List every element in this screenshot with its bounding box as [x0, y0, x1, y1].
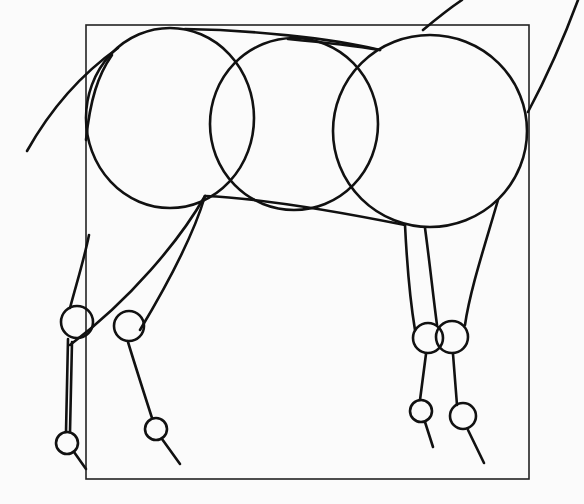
front-leg-2-upper — [140, 196, 205, 330]
hind-fetlock-1 — [410, 400, 432, 422]
hind-leg-1-pastern — [425, 422, 433, 447]
front-fetlock-1 — [56, 432, 78, 454]
front-knee-1 — [61, 306, 93, 338]
barrel-circle — [210, 38, 378, 210]
hindquarter-circle — [333, 35, 527, 227]
front-leg-2-pastern — [162, 439, 180, 464]
hind-leg-1-cannon — [420, 354, 426, 400]
horse-sketch-drawing — [0, 0, 584, 504]
body-circles — [86, 28, 527, 227]
hind-leg-2-upper — [425, 228, 437, 325]
hind-hock-2 — [436, 321, 468, 353]
horse-sketch-canvas: horse body construction sketch — [0, 0, 584, 504]
hind-leg-2-cannon — [453, 354, 457, 405]
frame-rect — [86, 25, 529, 479]
bounding-box — [86, 25, 529, 479]
front-leg-arm — [70, 196, 205, 345]
rump-line — [528, 0, 578, 112]
hind-fetlock-2 — [450, 403, 476, 429]
front-leg-1-cannon-2 — [70, 342, 72, 432]
front-fetlock-2 — [145, 418, 167, 440]
hind-leg-1-upper — [405, 225, 415, 330]
leg-joints — [56, 306, 476, 454]
front-leg-1-pastern — [74, 452, 86, 469]
front-leg-1-cannon — [66, 339, 68, 432]
front-knee-2 — [114, 311, 144, 341]
hind-leg-2-pastern — [468, 430, 484, 463]
construction-strokes — [27, 0, 578, 469]
front-leg-2-cannon — [128, 342, 152, 418]
